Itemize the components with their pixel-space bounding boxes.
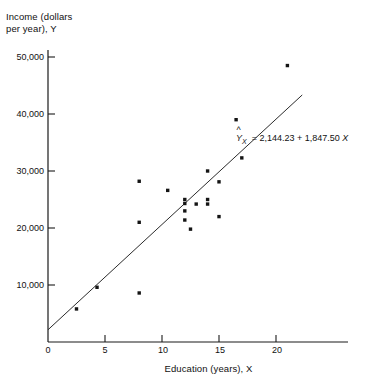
data-point: [206, 169, 209, 172]
data-point: [234, 118, 237, 121]
data-points-group: [75, 64, 289, 311]
data-point: [240, 156, 243, 159]
data-point: [166, 189, 169, 192]
data-point: [138, 221, 141, 224]
data-point: [95, 286, 98, 289]
y-axis-title: Income (dollarsper year), Y: [6, 11, 156, 34]
x-tick-label-5: 5: [90, 345, 120, 355]
data-point: [206, 202, 209, 205]
data-point: [183, 202, 186, 205]
x-axis-title: Education (years), X: [0, 363, 391, 375]
data-point: [195, 202, 198, 205]
data-point: [286, 64, 289, 67]
regression-response-symbol: Y: [236, 133, 242, 143]
y-axis-title-line1: Income (dollars: [6, 11, 72, 22]
y-axis-ticks: [48, 57, 55, 285]
data-point: [183, 209, 186, 212]
regression-line-segment: [48, 95, 302, 330]
data-point: [217, 180, 220, 183]
data-point: [75, 307, 78, 310]
plot-canvas: [0, 0, 391, 389]
data-point: [189, 227, 192, 230]
y-tick-label-30000: 30,000: [0, 166, 44, 176]
data-point: [183, 198, 186, 201]
y-tick-label-40000: 40,000: [0, 109, 44, 119]
regression-line: [48, 95, 302, 330]
scatter-plot-figure: Income (dollarsper year), Y 50,000 40,00…: [0, 0, 391, 389]
data-point: [183, 218, 186, 221]
x-tick-label-20: 20: [262, 345, 292, 355]
regression-response-subscript: X: [242, 138, 247, 145]
regression-predictor-symbol: X: [342, 133, 348, 143]
x-tick-label-15: 15: [205, 345, 235, 355]
data-point: [206, 198, 209, 201]
data-point: [217, 215, 220, 218]
axes-group: [48, 50, 348, 342]
x-axis-ticks: [105, 335, 276, 342]
regression-equation-annotation: YX = 2,144.23 + 1,847.50 X: [236, 133, 348, 145]
y-tick-label-50000: 50,000: [0, 52, 44, 62]
y-tick-label-20000: 20,000: [0, 223, 44, 233]
data-point: [138, 180, 141, 183]
x-axis-title-text: Education (years), X: [164, 363, 252, 374]
y-axis-title-line2: per year), Y: [6, 23, 57, 34]
y-tick-label-10000: 10,000: [0, 280, 44, 290]
regression-equation-text: = 2,144.23 + 1,847.50: [252, 133, 340, 143]
data-point: [138, 291, 141, 294]
x-tick-label-0: 0: [33, 345, 63, 355]
x-tick-label-10: 10: [148, 345, 178, 355]
